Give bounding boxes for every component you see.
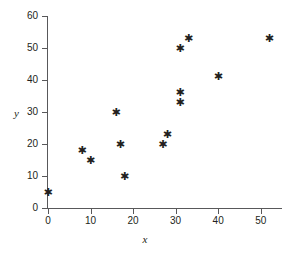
data-point: ✱: [163, 130, 172, 139]
x-tick-10: [91, 209, 92, 214]
x-tick-label-20: 20: [121, 216, 145, 226]
y-axis-title: y: [14, 107, 19, 119]
x-axis-title: x: [0, 233, 290, 245]
scatter-plot: 0102030405060 01020304050 ✱✱✱✱✱✱✱✱✱✱✱✱✱✱…: [0, 0, 290, 258]
x-axis-line: [47, 208, 282, 209]
y-tick-label-40: 40: [16, 75, 38, 85]
x-tick-40: [218, 209, 219, 214]
x-tick-label-40: 40: [206, 216, 230, 226]
data-markers-layer: ✱✱✱✱✱✱✱✱✱✱✱✱✱✱: [48, 16, 282, 208]
data-point: ✱: [116, 140, 125, 149]
data-point: ✱: [175, 98, 184, 107]
y-tick-label-30: 30: [16, 107, 38, 117]
x-tick-0: [48, 209, 49, 214]
data-point: ✱: [175, 88, 184, 97]
x-tick-30: [176, 209, 177, 214]
x-tick-label-10: 10: [79, 216, 103, 226]
y-tick-label-20: 20: [16, 139, 38, 149]
x-tick-label-50: 50: [249, 216, 273, 226]
y-tick-label-10: 10: [16, 171, 38, 181]
data-point: ✱: [265, 34, 274, 43]
y-tick-label-0: 0: [16, 203, 38, 213]
x-tick-20: [133, 209, 134, 214]
y-tick-label-60: 60: [16, 11, 38, 21]
x-tick-label-0: 0: [36, 216, 60, 226]
x-tick-50: [261, 209, 262, 214]
data-point: ✱: [86, 156, 95, 165]
data-point: ✱: [214, 72, 223, 81]
data-point: ✱: [120, 172, 129, 181]
x-tick-label-30: 30: [164, 216, 188, 226]
y-tick-label-50: 50: [16, 43, 38, 53]
data-point: ✱: [44, 188, 53, 197]
data-point: ✱: [184, 34, 193, 43]
data-point: ✱: [112, 108, 121, 117]
